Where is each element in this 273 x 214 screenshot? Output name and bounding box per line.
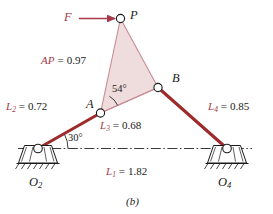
angle-label-54: 54° [112, 84, 127, 95]
angle-label-30: 30° [68, 133, 83, 144]
dimension-sub-L4: 4 [214, 105, 218, 114]
point-label-A: A [86, 98, 94, 111]
pivot-name-O2: O [29, 175, 38, 189]
pin-joint-P [116, 14, 124, 22]
point-label-P: P [130, 9, 138, 22]
pin-joint-O2 [34, 144, 43, 153]
ground-support-O2 [16, 144, 60, 169]
dimension-label-L1: L1=1.82 [106, 166, 147, 179]
dimension-label-L4: L4=0.85 [208, 101, 249, 114]
dimension-sub-L1: 1 [112, 170, 116, 179]
dimension-eq-L3: = [113, 119, 119, 131]
dimension-sub-L2: 2 [12, 105, 16, 114]
dimension-label-AP: AP=0.97 [41, 55, 86, 66]
dimension-label-L3: L3=0.68 [100, 120, 141, 133]
dimension-sub-L3: 3 [106, 124, 110, 133]
dimension-eq-AP: = [57, 54, 63, 66]
pin-joint-A [96, 109, 104, 117]
pin-joint-O4 [223, 144, 232, 153]
dimension-value-L2: 0.72 [28, 100, 47, 112]
pivot-label-O4: O4 [218, 176, 231, 190]
point-label-B: B [172, 72, 180, 85]
fourbar-linkage-figure: F P B A AP=0.97 L2=0.72 L4=0.85 L3=0.68 … [0, 0, 273, 214]
dimension-label-L2: L2=0.72 [6, 101, 47, 114]
dimension-value-AP: 0.97 [67, 54, 86, 66]
dimension-value-L1: 1.82 [128, 165, 147, 177]
coupler-triangle [101, 19, 159, 114]
dimension-eq-L2: = [19, 100, 25, 112]
rocker-link-BO4 [158, 88, 227, 149]
pivot-label-O2: O2 [29, 176, 42, 190]
dimension-eq-L4: = [221, 100, 227, 112]
pivot-sub-O4: 4 [227, 180, 231, 190]
force-label: F [64, 11, 72, 24]
figure-caption: (b) [126, 196, 139, 207]
pivot-name-O4: O [218, 175, 227, 189]
pin-joint-B [154, 83, 162, 91]
pivot-sub-O2: 2 [38, 180, 42, 190]
dimension-value-L3: 0.68 [122, 119, 141, 131]
dimension-name-AP: AP [41, 54, 54, 66]
dimension-value-L4: 0.85 [230, 100, 249, 112]
dimension-eq-L1: = [119, 165, 125, 177]
ground-support-O4 [205, 144, 249, 169]
